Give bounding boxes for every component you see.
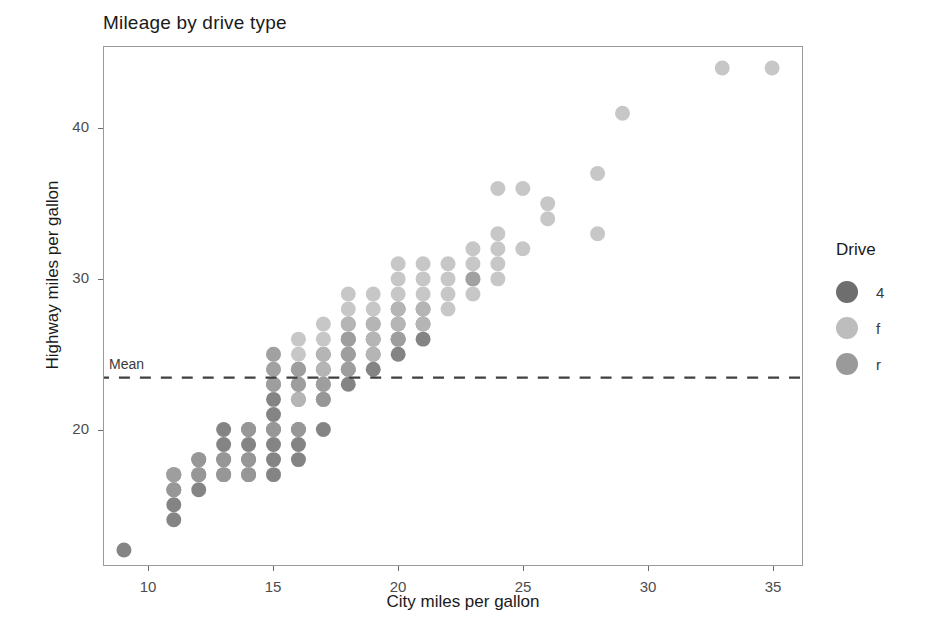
data-point [266,437,281,452]
data-point [615,106,630,121]
data-point [366,302,381,317]
data-point [266,407,281,422]
legend-key-dot [836,281,858,303]
data-point [216,452,231,467]
legend-item-label: 4 [876,284,884,301]
data-point [291,332,306,347]
data-point [316,362,331,377]
data-point [291,452,306,467]
data-point [266,362,281,377]
data-point [241,467,256,482]
data-point [391,347,406,362]
legend-key-dot [836,353,858,375]
y-tick-label: 30 [49,269,89,286]
legend-items: 4fr [836,274,926,382]
data-point [241,422,256,437]
data-point [341,302,356,317]
legend: Drive 4fr [836,240,926,382]
data-point [416,286,431,301]
data-point [316,422,331,437]
y-tick-label: 40 [49,118,89,135]
data-point [266,452,281,467]
legend-key-dot [836,317,858,339]
data-point [465,256,480,271]
x-tick-label: 20 [373,578,423,595]
legend-item-f[interactable]: f [836,310,926,346]
data-point [515,181,530,196]
data-point [341,317,356,332]
x-tick-label: 15 [248,578,298,595]
chart-title: Mileage by drive type [103,12,287,34]
data-point [490,256,505,271]
data-point [216,437,231,452]
data-point [416,317,431,332]
chart-root: Mileage by drive type Highway miles per … [0,0,926,642]
data-point [441,286,456,301]
data-point [490,181,505,196]
legend-title: Drive [836,240,926,260]
data-point [316,332,331,347]
data-point [366,286,381,301]
data-point [316,392,331,407]
data-point [416,256,431,271]
data-point [540,196,555,211]
data-point [166,512,181,527]
data-point [540,211,555,226]
data-point [241,452,256,467]
data-point [341,377,356,392]
x-tick-label: 25 [498,578,548,595]
data-point [266,392,281,407]
x-tick-mark [648,566,649,571]
data-point [166,497,181,512]
scatter-plot-area [104,47,802,565]
y-tick-label: 20 [49,420,89,437]
data-point [441,256,456,271]
data-point [465,241,480,256]
data-point [316,317,331,332]
data-point [166,482,181,497]
data-point [291,422,306,437]
data-point [590,166,605,181]
data-point [341,362,356,377]
data-point [191,467,206,482]
data-point [166,467,181,482]
mean-annotation-label: Mean [109,356,144,372]
data-point [266,377,281,392]
data-point [391,317,406,332]
data-point [490,226,505,241]
data-point [391,271,406,286]
legend-item-4[interactable]: 4 [836,274,926,310]
legend-item-r[interactable]: r [836,346,926,382]
data-point [490,271,505,286]
data-point [341,332,356,347]
legend-item-label: r [876,356,881,373]
data-point [116,542,131,557]
data-point [366,362,381,377]
data-point [291,362,306,377]
data-point [391,332,406,347]
data-point [266,347,281,362]
data-point [391,286,406,301]
data-point [341,347,356,362]
data-point [416,271,431,286]
data-point [441,302,456,317]
data-point [216,422,231,437]
series-r [166,271,480,497]
data-point [316,377,331,392]
data-point [291,437,306,452]
data-point [441,271,456,286]
data-point [465,286,480,301]
data-point [391,256,406,271]
legend-item-label: f [876,320,880,337]
data-point [715,61,730,76]
data-point [266,467,281,482]
data-point [366,347,381,362]
data-point [316,347,331,362]
x-tick-mark [523,566,524,571]
data-point [391,302,406,317]
x-tick-label: 35 [748,578,798,595]
x-axis-label: City miles per gallon [0,592,926,612]
x-tick-label: 10 [123,578,173,595]
data-point [341,286,356,301]
x-tick-mark [773,566,774,571]
